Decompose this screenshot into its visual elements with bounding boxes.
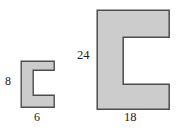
large-shape-width-label: 18 bbox=[124, 111, 137, 124]
small-c-shape-outline bbox=[21, 61, 54, 107]
large-c-shape bbox=[95, 8, 171, 111]
large-shape-height-label: 24 bbox=[77, 49, 90, 62]
small-shape-width-label: 6 bbox=[34, 111, 40, 123]
large-c-shape-outline bbox=[97, 10, 169, 109]
small-c-shape bbox=[20, 60, 56, 109]
figure-canvas: 8 6 24 18 bbox=[0, 0, 178, 135]
small-shape-height-label: 8 bbox=[5, 75, 11, 87]
